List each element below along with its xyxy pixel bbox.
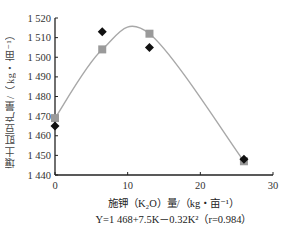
y-tick-label: 1 510 — [27, 32, 51, 43]
y-tick-label: 1 490 — [27, 71, 51, 82]
regression-equation: Y=1 468+7.5K－0.32K²（r=0.984） — [60, 211, 287, 226]
y-tick-label: 1 480 — [27, 91, 51, 102]
observed-point-diamond — [145, 43, 154, 52]
fitted-point-square — [145, 30, 153, 38]
y-tick-label: 1 500 — [27, 52, 51, 63]
x-tick-label: 30 — [268, 180, 279, 191]
observed-point-diamond — [98, 27, 107, 36]
x-tick-label: 20 — [195, 180, 206, 191]
fitted-point-square — [51, 114, 59, 122]
y-tick-label: 1 470 — [27, 111, 51, 122]
fitted-point-square — [98, 45, 106, 53]
x-tick-label: 10 — [122, 180, 133, 191]
data-points — [51, 27, 249, 165]
y-tick-label: 1 520 — [27, 13, 51, 24]
y-tick-label: 1 440 — [27, 170, 51, 181]
y-tick-label: 1 460 — [27, 130, 51, 141]
y-axis-title: 壤土豇豆产量/（kg・亩⁻¹） — [3, 18, 19, 178]
y-tick-label: 1 450 — [27, 150, 51, 161]
observed-point-diamond — [51, 121, 60, 130]
x-axis-title: 施钾（K₂O）量/（kg・亩⁻¹） — [60, 195, 287, 210]
x-tick-label: 0 — [52, 180, 57, 191]
